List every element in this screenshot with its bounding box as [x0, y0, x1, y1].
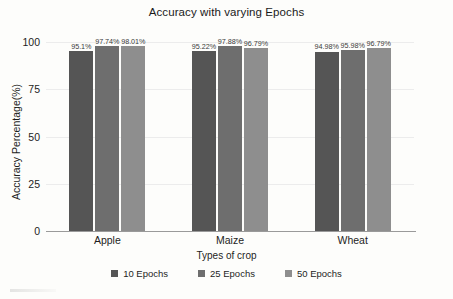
chart-container: Accuracy with varying Epochs 0255075100 … — [0, 0, 453, 299]
bar-value-label: 94.98% — [314, 42, 338, 51]
bar-value-label: 98.01% — [121, 37, 145, 46]
x-axis-line — [46, 231, 416, 232]
y-axis-title: Accuracy Percentage(%) — [10, 62, 22, 222]
legend-item[interactable]: 10 Epochs — [111, 268, 168, 279]
bar — [218, 46, 242, 231]
legend-label: 10 Epochs — [123, 268, 168, 279]
legend-label: 25 Epochs — [210, 268, 255, 279]
y-axis-tick-label: 100 — [6, 36, 40, 48]
legend-item[interactable]: 50 Epochs — [285, 268, 342, 279]
legend-swatch-icon — [285, 270, 292, 277]
bar-value-label: 97.74% — [95, 37, 119, 46]
bar — [192, 51, 216, 231]
bar — [367, 48, 391, 231]
x-axis-category-label: Maize — [216, 234, 244, 246]
plot-area: 95.1%97.74%98.01%95.22%97.88%96.79%94.98… — [46, 42, 414, 231]
bar-value-label: 95.98% — [340, 41, 364, 50]
bar — [69, 51, 93, 231]
legend-swatch-icon — [111, 270, 118, 277]
y-axis-tick-label: 0 — [6, 225, 40, 237]
legend-item[interactable]: 25 Epochs — [198, 268, 255, 279]
bar-value-label: 96.79% — [244, 39, 268, 48]
chart-title: Accuracy with varying Epochs — [0, 6, 453, 18]
bar-value-label: 96.79% — [366, 39, 390, 48]
bar — [341, 50, 365, 231]
bar-value-label: 95.22% — [192, 42, 216, 51]
bar — [244, 48, 268, 231]
legend-label: 50 Epochs — [297, 268, 342, 279]
scan-artifact — [10, 289, 56, 292]
bar — [95, 46, 119, 231]
bar-value-label: 95.1% — [71, 42, 91, 51]
bar — [315, 52, 339, 232]
x-axis-category-label: Apple — [94, 234, 121, 246]
x-axis-title: Types of crop — [0, 250, 453, 261]
chart-legend: 10 Epochs25 Epochs50 Epochs — [0, 268, 453, 279]
x-axis-category-label: Wheat — [337, 234, 367, 246]
legend-swatch-icon — [198, 270, 205, 277]
bar — [121, 46, 145, 231]
bar-value-label: 97.88% — [218, 37, 242, 46]
